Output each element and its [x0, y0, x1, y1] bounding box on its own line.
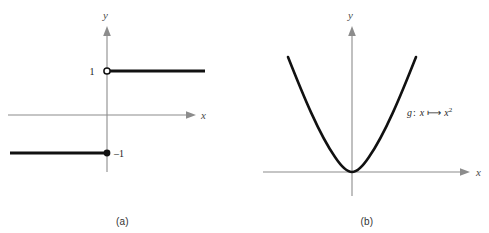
filled-dot-marker — [104, 150, 111, 157]
y-axis-label: y — [347, 9, 353, 21]
function-label: g:x⟼x2 — [407, 106, 453, 118]
y-axis-arrowhead — [348, 26, 356, 36]
figure-container: x y –1 1 (a) x — [0, 0, 489, 233]
y-axis-arrowhead — [103, 26, 111, 36]
panel-a-caption: (a) — [0, 216, 245, 227]
panel-a-plot: x y –1 1 — [0, 0, 245, 233]
x-axis-label: x — [475, 166, 481, 178]
maps-to-arrow-icon: ⟼ — [427, 107, 441, 118]
function-label-variable: x — [419, 107, 425, 118]
x-axis-group-a — [8, 111, 196, 119]
function-label-name: g — [407, 107, 412, 118]
panel-a: x y –1 1 (a) — [0, 0, 245, 233]
function-label-separator: : — [413, 107, 416, 118]
lower-tick-label: –1 — [113, 148, 124, 159]
panel-b-caption: (b) — [245, 216, 489, 227]
x-axis-group-b — [263, 168, 470, 176]
x-axis-arrowhead — [460, 168, 470, 176]
x-axis-arrowhead — [186, 111, 196, 119]
open-circle-marker — [104, 68, 110, 74]
x-axis-label: x — [200, 109, 206, 121]
upper-tick-label: 1 — [90, 66, 95, 77]
panel-b: x y g:x⟼x2 (b) — [245, 0, 489, 233]
panel-b-plot: x y g:x⟼x2 — [245, 0, 489, 233]
y-axis-label: y — [102, 9, 108, 21]
function-label-exponent: 2 — [449, 106, 453, 114]
